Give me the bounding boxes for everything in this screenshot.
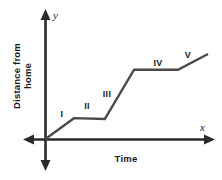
segment-label-i: I	[61, 109, 64, 119]
distance-time-graph-figure: y x Time I II III IV V Distance from hom…	[0, 0, 222, 180]
segment-label-iv: IV	[153, 58, 162, 68]
distance-time-polyline	[46, 54, 209, 139]
y-axis-variable-label: y	[52, 9, 58, 21]
y-axis-title-line-2: home	[22, 43, 33, 109]
y-axis-down-arrow-icon	[41, 160, 51, 171]
segment-label-v: V	[185, 50, 191, 60]
y-axis-title: Distance from home	[0, 28, 44, 124]
x-axis-right-arrow-icon	[204, 135, 215, 145]
x-axis-title: Time	[115, 153, 138, 164]
x-axis-variable-label: x	[199, 121, 205, 133]
x-axis-left-arrow-icon	[23, 135, 34, 145]
segment-label-ii: II	[84, 101, 90, 111]
y-axis-title-line-1: Distance from	[11, 43, 22, 109]
segment-label-iii: III	[103, 89, 111, 99]
y-axis-up-arrow-icon	[41, 9, 51, 20]
